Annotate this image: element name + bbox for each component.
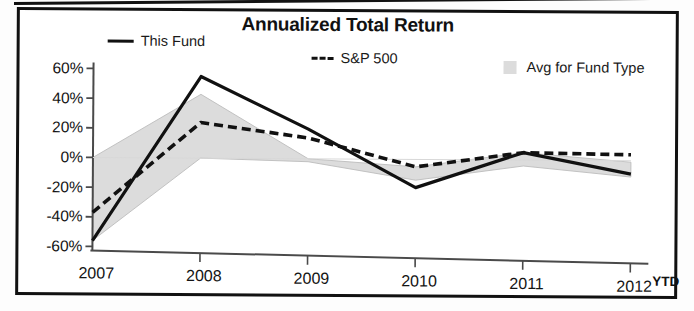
page-edge-rule (14, 0, 686, 5)
x-axis-tick-label: 2009 (294, 270, 330, 288)
ytd-note-label: YTD (652, 274, 679, 289)
x-axis-tick-label: 2008 (186, 267, 222, 285)
chart-inner: Annualized Total Return This Fund S&P 50… (18, 10, 676, 296)
x-axis-tick-label: 2011 (509, 275, 544, 293)
x-axis-tick-label: 2007 (78, 264, 114, 282)
scanned-page-background: Annualized Total Return This Fund S&P 50… (0, 0, 694, 311)
chart-frame: Annualized Total Return This Fund S&P 50… (15, 7, 679, 299)
x-axis-tick-label: 2010 (401, 272, 437, 290)
x-axis-tick-label: 2012 (616, 278, 652, 296)
x-axis-tick-labels: 200720082009201020112012 (18, 10, 676, 296)
